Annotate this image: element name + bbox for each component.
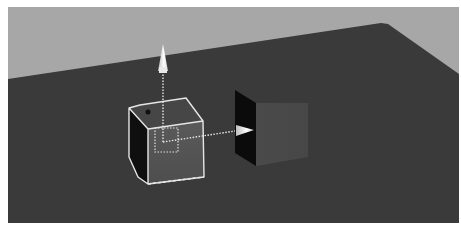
3d-viewport[interactable] bbox=[8, 7, 459, 223]
scene-canvas[interactable] bbox=[8, 7, 459, 223]
